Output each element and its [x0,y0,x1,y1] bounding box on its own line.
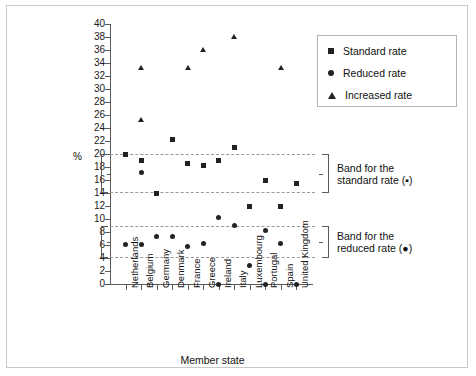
triangle-marker-icon [328,92,336,99]
band-note-standard: Band for thestandard rate (▪) [337,162,413,186]
data-point [123,242,128,247]
data-point [216,215,221,220]
band-left-brace [101,154,108,193]
x-category-label: France [192,258,202,288]
y-tick [105,89,110,90]
x-axis-category-labels: NetherlandsBelgiumGermanyDenmarkFranceGr… [110,288,315,350]
data-point [278,65,284,70]
y-tick [105,128,110,129]
y-tick-label: 34 [94,58,105,68]
data-point [278,204,283,209]
band-note-line2: reduced rate (●) [337,242,412,254]
x-category-label: Denmark [176,249,186,288]
chart-legend: Standard rate Reduced rate Increased rat… [317,35,457,107]
data-point [216,282,221,287]
band-note-line2: standard rate (▪) [337,174,413,186]
band-right-brace [322,226,329,259]
legend-item-standard-rate: Standard rate [328,44,407,58]
data-point [201,241,206,246]
y-tick [105,76,110,77]
data-point [139,158,144,163]
data-point [200,47,206,52]
y-tick-label: 36 [94,45,105,55]
data-point [263,178,268,183]
data-point [216,158,221,163]
square-marker-icon [328,48,334,54]
legend-label: Increased rate [345,89,412,101]
y-tick-label: 12 [94,201,105,211]
y-tick-label: 24 [94,123,105,133]
legend-label: Reduced rate [343,67,406,79]
data-point [123,152,128,157]
circle-marker-icon [328,70,334,76]
data-point [154,191,159,196]
x-category-label: Germany [161,249,171,288]
y-tick [105,193,110,194]
band-note-reduced: Band for thereduced rate (●) [337,230,412,254]
data-point [232,223,237,228]
x-category-label: Luxembourg [254,235,264,288]
y-tick-label: 28 [94,97,105,107]
data-point [185,161,190,166]
data-point [294,181,299,186]
x-category-label: Greece [207,257,217,288]
legend-label: Standard rate [343,45,407,57]
data-point [170,234,175,239]
data-point [247,204,252,209]
y-tick [105,206,110,207]
y-tick-label: 22 [94,136,105,146]
x-axis-title: Member state [110,354,315,366]
x-category-label: Italy [238,271,248,288]
y-tick-label: 26 [94,110,105,120]
plot-area: 0246810121416182022242628303234363840 [110,24,312,284]
chart-frame: % 0246810121416182022242628303234363840 … [6,5,468,368]
x-category-label: Portugal [269,253,279,288]
x-category-label: Netherlands [130,237,140,288]
band-note-line1: Band for the [337,230,412,242]
data-point [138,117,144,122]
x-category-label: Belgium [145,254,155,288]
band-right-brace [322,154,329,193]
legend-item-increased-rate: Increased rate [328,88,412,102]
y-tick [105,24,110,25]
data-point [231,34,237,39]
band-note-line1: Band for the [337,162,413,174]
legend-item-reduced-rate: Reduced rate [328,66,406,80]
data-point [201,163,206,168]
y-tick [105,219,110,220]
data-point [232,145,237,150]
y-tick-label: 30 [94,84,105,94]
y-tick [105,102,110,103]
y-tick-label: 38 [94,32,105,42]
data-point [185,65,191,70]
y-tick [105,271,110,272]
y-tick [105,37,110,38]
data-point [139,170,144,175]
data-point [263,228,268,233]
x-category-label: Spain [285,264,295,288]
data-point [138,65,144,70]
x-category-label: Ireland [223,259,233,288]
data-point [247,263,252,268]
y-tick-label: 40 [94,19,105,29]
y-tick-label: 32 [94,71,105,81]
data-point [170,137,175,142]
band-left-brace [101,226,108,259]
y-tick [105,115,110,116]
y-tick-label: 10 [94,214,105,224]
y-tick [105,141,110,142]
x-category-label: United Kingdom [300,220,310,288]
y-tick [105,63,110,64]
y-tick [105,258,110,259]
y-tick [105,50,110,51]
